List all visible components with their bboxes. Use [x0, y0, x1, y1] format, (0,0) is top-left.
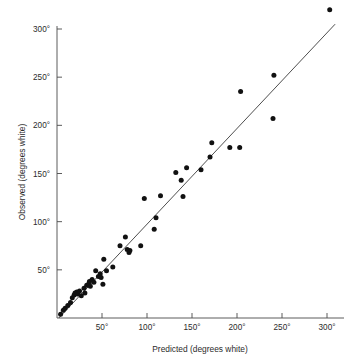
data-point	[101, 257, 106, 262]
data-point	[138, 243, 143, 248]
y-axis-tick-labels: 50°100°150°200°250°300°	[33, 25, 50, 275]
data-point	[199, 167, 204, 172]
data-point	[173, 170, 178, 175]
data-point-group	[58, 7, 332, 316]
data-point	[123, 235, 128, 240]
x-tick-label: 50°	[96, 323, 108, 332]
y-tick-label: 150°	[33, 170, 50, 179]
data-point	[237, 145, 242, 150]
data-point	[91, 280, 96, 285]
x-tick-label: 200°	[229, 323, 246, 332]
y-tick-label: 100°	[33, 218, 50, 227]
data-point	[327, 7, 332, 12]
data-point	[118, 243, 123, 248]
x-tick-label: 100°	[139, 323, 156, 332]
data-point	[142, 196, 147, 201]
data-point	[179, 178, 184, 183]
data-point	[82, 290, 87, 295]
x-axis-tick-labels: 50°100°150°200°250°300°	[96, 323, 336, 332]
data-point	[238, 89, 243, 94]
data-point	[184, 165, 189, 170]
x-tick-label: 300°	[319, 323, 336, 332]
y-tick-label: 50°	[38, 266, 50, 275]
scatter-plot-figure: 50°100°150°200°250°300° 50°100°150°200°2…	[0, 0, 360, 363]
data-point	[209, 140, 214, 145]
y-tick-label: 200°	[33, 121, 50, 130]
data-point	[152, 227, 157, 232]
chart-canvas: 50°100°150°200°250°300° 50°100°150°200°2…	[0, 0, 360, 363]
x-tick-label: 250°	[274, 323, 291, 332]
data-point	[68, 300, 73, 305]
data-point	[158, 193, 163, 198]
data-point	[104, 268, 109, 273]
data-point	[227, 145, 232, 150]
y-tick-label: 300°	[33, 25, 50, 34]
data-point	[127, 248, 132, 253]
data-point	[154, 215, 159, 220]
data-point	[271, 116, 276, 121]
x-axis-title: Predicted (degrees white)	[152, 344, 248, 354]
x-axis-ticks	[102, 313, 327, 318]
x-tick-label: 150°	[184, 323, 201, 332]
y-axis-ticks	[57, 29, 62, 270]
data-point	[110, 264, 115, 269]
data-point	[99, 275, 104, 280]
data-point	[208, 155, 213, 160]
y-axis-title: Observed (degrees white)	[17, 124, 27, 221]
data-point	[88, 284, 93, 289]
y-tick-label: 250°	[33, 73, 50, 82]
data-point	[93, 268, 98, 273]
data-point	[100, 282, 105, 287]
data-point	[271, 73, 276, 78]
data-point	[181, 194, 186, 199]
data-point	[77, 289, 82, 294]
